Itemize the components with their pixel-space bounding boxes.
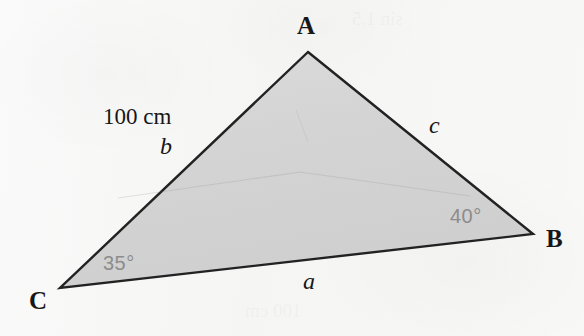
triangle-diagram-figure: sin 1.5 100 cm A B C a b c 100 cm 35° 40… [0,0,584,336]
side-label-c: c [429,113,440,137]
angle-label-c: 35° [103,253,135,273]
triangle-shape [0,0,584,336]
vertex-label-c: C [29,288,47,313]
vertex-label-b: B [546,226,563,251]
angle-label-b: 40° [450,206,482,226]
side-label-a: a [303,269,315,293]
side-label-b: b [160,134,172,158]
vertex-label-a: A [297,13,315,38]
side-length-label-b: 100 cm [103,105,171,128]
